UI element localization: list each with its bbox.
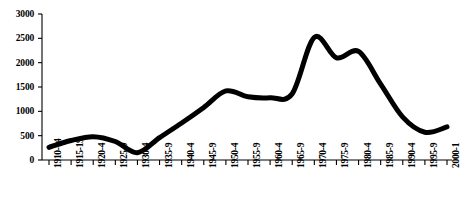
y-tick-label: 3000 <box>0 9 34 19</box>
y-tick-label: 2500 <box>0 33 34 43</box>
x-tick-label: 1915-19 <box>75 138 85 168</box>
x-tick-label: 1950-4 <box>230 143 240 168</box>
y-tick-label: 2000 <box>0 58 34 68</box>
x-tick-label: 1990-4 <box>407 143 417 168</box>
x-tick-label: 1935-9 <box>164 143 174 168</box>
x-tick-label: 1995-9 <box>429 143 439 168</box>
x-tick-label: 1910-14 <box>53 138 63 168</box>
x-tick-label: 1930-4 <box>141 143 151 168</box>
x-tick-label: 1970-4 <box>318 143 328 168</box>
x-tick-label: 1980-4 <box>363 143 373 168</box>
x-tick-label: 1955-9 <box>252 143 262 168</box>
y-tick-label: 0 <box>0 155 34 165</box>
x-tick-label: 1925-9 <box>119 143 129 168</box>
y-tick-label: 1000 <box>0 106 34 116</box>
x-tick-label: 1920-4 <box>97 143 107 168</box>
line-chart: 050010001500200025003000 1910-141915-191… <box>0 0 462 213</box>
x-tick-label: 1975-9 <box>340 143 350 168</box>
x-tick-label: 1960-4 <box>274 143 284 168</box>
x-tick-label: 1945-9 <box>208 143 218 168</box>
y-tick-label: 1500 <box>0 82 34 92</box>
y-tick-label: 500 <box>0 131 34 141</box>
x-tick-label: 2000-1 <box>451 143 461 168</box>
data-series-line <box>49 36 447 152</box>
x-tick-label: 1985-9 <box>385 143 395 168</box>
chart-plot-area <box>0 0 462 213</box>
x-tick-label: 1965-9 <box>296 143 306 168</box>
x-tick-label: 1940-4 <box>186 143 196 168</box>
